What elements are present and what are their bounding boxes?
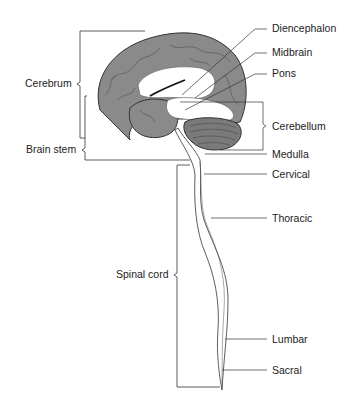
cerebellum-shape [184,118,241,150]
label-midbrain: Midbrain [272,46,312,58]
spinal-cord-shape [175,128,228,390]
label-diencephalon: Diencephalon [272,22,336,34]
label-spinal-cord: Spinal cord [116,268,169,280]
label-lumbar: Lumbar [272,333,308,345]
brain-spinal-cord-diagram [0,0,352,411]
label-cervical: Cervical [272,168,310,180]
label-cerebrum: Cerebrum [25,77,72,89]
label-sacral: Sacral [272,364,302,376]
label-medulla: Medulla [272,148,309,160]
label-pons: Pons [272,67,296,79]
label-cerebellum: Cerebellum [272,120,326,132]
label-thoracic: Thoracic [272,212,312,224]
label-brain-stem: Brain stem [26,143,76,155]
